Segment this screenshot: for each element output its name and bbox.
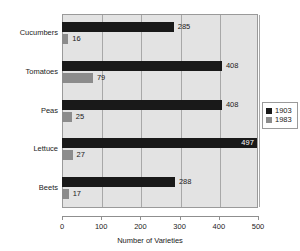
chart-row: 28817 [0,169,300,208]
chart-row: 40879 [0,53,300,92]
x-tick-0 [62,216,63,220]
bar-value-label: 288 [175,178,192,186]
bar-beets-1903 [62,177,175,187]
x-tick-500 [258,216,259,220]
chart-row: 28516 [0,14,300,53]
bar-value-label: 408 [222,62,239,70]
bar-value-label: 79 [93,74,105,82]
x-axis-line [62,216,258,217]
legend-label: 1983 [275,116,292,124]
bar-value-label: 25 [72,113,84,121]
legend-item-1983[interactable]: 1983 [266,116,295,124]
bar-value-label: 285 [174,23,191,31]
x-tick-200 [140,216,141,220]
bar-cucumbers-1903 [62,22,174,32]
bar-value-label: 27 [73,151,85,159]
bar-tomatoes-1903 [62,61,222,71]
x-tick-label-400: 400 [213,222,226,231]
x-tick-label-500: 500 [252,222,265,231]
chart-row: 49727 [0,130,300,169]
legend-item-1903[interactable]: 1903 [266,107,295,115]
x-tick-400 [219,216,220,220]
x-tick-300 [180,216,181,220]
x-tick-label-200: 200 [134,222,147,231]
bar-lettuce-1903 [62,138,257,148]
bar-beets-1983 [62,189,69,199]
x-tick-label-0: 0 [60,222,64,231]
legend-swatch-icon [266,108,272,114]
bar-peas-1903 [62,100,222,110]
x-tick-100 [101,216,102,220]
chart-row: 40825 [0,92,300,131]
chart-legend: 19031983 [262,102,298,129]
bar-value-label: 497 [241,139,257,147]
bar-peas-1983 [62,112,72,122]
x-axis-title: Number of Varieties [0,236,300,245]
bar-lettuce-1983 [62,150,73,160]
bar-value-label: 408 [222,101,239,109]
legend-label: 1903 [275,107,292,115]
x-tick-label-100: 100 [95,222,108,231]
legend-swatch-icon [266,117,272,123]
bar-tomatoes-1983 [62,73,93,83]
bar-value-label: 17 [69,190,81,198]
bar-value-label: 16 [68,35,80,43]
x-tick-label-300: 300 [173,222,186,231]
bar-chart: Cucumbers28516Tomatoes40879Peas40825Lett… [0,0,300,251]
